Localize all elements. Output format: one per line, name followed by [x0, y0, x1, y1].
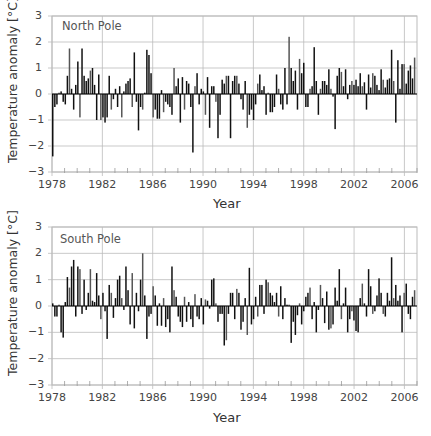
data-bar — [309, 288, 310, 306]
data-bar — [148, 306, 149, 317]
data-bar — [138, 306, 139, 311]
data-bar — [307, 293, 308, 306]
data-bar — [261, 285, 262, 306]
data-bar — [403, 293, 404, 306]
data-bar — [362, 284, 363, 306]
data-bar — [391, 257, 392, 306]
data-bar — [79, 269, 80, 306]
data-bar — [106, 306, 107, 339]
data-bar — [167, 306, 168, 319]
y-tick-label: 3 — [28, 220, 42, 233]
data-bar — [88, 293, 89, 306]
data-bar — [205, 299, 206, 306]
data-bar — [372, 306, 373, 314]
data-bar — [305, 297, 306, 306]
data-bar — [226, 306, 227, 340]
data-bar — [380, 293, 381, 306]
data-bar — [102, 293, 103, 306]
data-bar — [414, 290, 415, 306]
data-bar — [62, 306, 63, 338]
data-bar — [234, 306, 235, 319]
data-bar — [169, 306, 170, 332]
data-bar — [339, 269, 340, 306]
data-bar — [146, 306, 147, 339]
data-bar — [301, 306, 302, 324]
data-bar — [276, 293, 277, 306]
data-bar — [320, 285, 321, 306]
data-bar — [357, 306, 358, 332]
data-bar — [180, 306, 181, 322]
x-tick-label: 2002 — [340, 391, 368, 404]
data-bar — [190, 306, 191, 319]
data-bar — [201, 298, 202, 306]
data-bar — [311, 306, 312, 319]
data-bar — [67, 277, 68, 306]
data-bar — [224, 306, 225, 346]
x-axis-label: Year — [213, 410, 241, 425]
data-bar — [182, 306, 183, 327]
data-bar — [322, 298, 323, 306]
data-bar — [366, 306, 367, 317]
data-bar — [408, 306, 409, 314]
data-bar — [178, 306, 179, 317]
data-bar — [142, 253, 143, 306]
data-bar — [282, 306, 283, 319]
data-bar — [293, 306, 294, 322]
x-tick-label: 1998 — [290, 391, 318, 404]
data-bar — [100, 306, 101, 319]
data-bar — [368, 269, 369, 306]
data-bar — [324, 306, 325, 323]
data-bar — [163, 298, 164, 306]
data-bar — [412, 297, 413, 306]
data-bar — [127, 290, 128, 306]
data-bar — [259, 285, 260, 306]
x-tick-label: 2006 — [390, 391, 418, 404]
data-bar — [144, 295, 145, 306]
data-bar — [316, 306, 317, 332]
data-bar — [257, 306, 258, 317]
data-bar — [313, 302, 314, 306]
data-bar — [71, 267, 72, 307]
data-bar — [90, 269, 91, 306]
data-bar — [274, 302, 275, 306]
data-bar — [131, 273, 132, 306]
data-bar — [336, 301, 337, 306]
data-bar — [184, 297, 185, 306]
y-tick-label: 1 — [28, 273, 42, 286]
data-bar — [280, 286, 281, 306]
data-bar — [207, 301, 208, 306]
data-bar — [244, 298, 245, 306]
data-bar — [211, 280, 212, 306]
data-bar — [217, 306, 218, 322]
data-bar — [92, 301, 93, 306]
data-bar — [332, 306, 333, 324]
data-bar — [157, 306, 158, 326]
data-bar — [73, 260, 74, 306]
data-bar — [267, 282, 268, 306]
data-bar — [240, 306, 241, 330]
data-bar — [65, 302, 66, 306]
data-bar — [355, 306, 356, 331]
data-bar — [196, 306, 197, 317]
data-bar — [242, 306, 243, 322]
data-bar — [284, 298, 285, 306]
data-bar — [345, 288, 346, 306]
data-bar — [247, 306, 248, 335]
data-bar — [154, 295, 155, 306]
data-bar — [230, 293, 231, 306]
data-bar — [81, 306, 82, 314]
data-bar — [253, 306, 254, 319]
x-tick-label: 1994 — [239, 391, 267, 404]
data-bar — [77, 267, 78, 307]
y-tick-label: −1 — [28, 325, 42, 338]
data-bar — [318, 306, 319, 310]
data-bar — [221, 306, 222, 314]
data-bar — [54, 306, 55, 317]
data-bar — [213, 278, 214, 306]
x-tick-label: 1990 — [189, 391, 217, 404]
south-pole-chart — [0, 0, 431, 436]
south-pole-panel: South Pole Temperature anomaly [°C] Year… — [0, 0, 431, 436]
data-bar — [353, 306, 354, 320]
y-tick-label: −2 — [28, 352, 42, 365]
data-bar — [401, 306, 402, 332]
